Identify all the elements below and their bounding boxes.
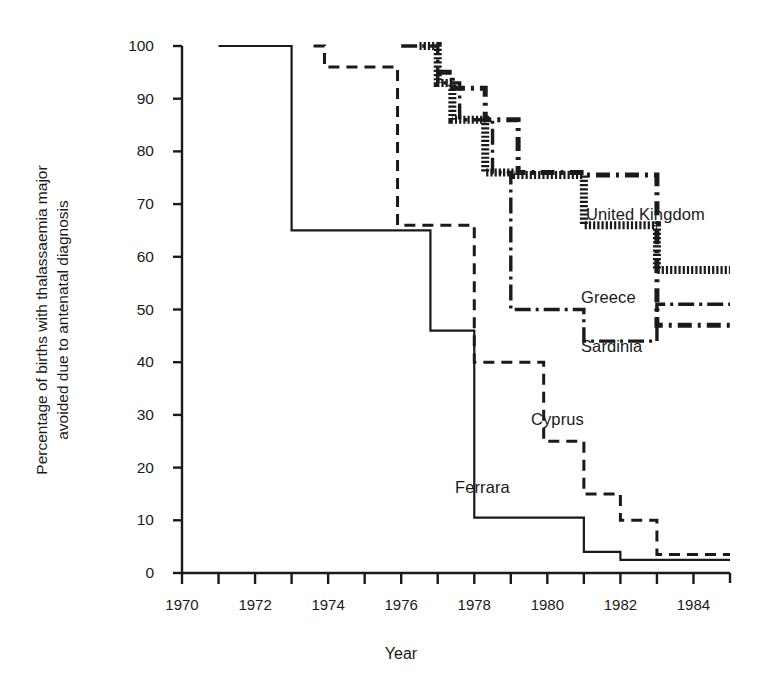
series-label-cyprus: Cyprus <box>531 410 584 429</box>
series-label-sardinia: Sardinia <box>581 337 642 356</box>
chart-figure: Percentage of births with thalassaemia m… <box>0 0 760 697</box>
series-label-ferrara: Ferrara <box>455 478 510 497</box>
axis-ticks <box>173 46 730 584</box>
series-label-united-kingdom: United Kingdom <box>586 205 705 224</box>
series-line-cyprus <box>314 46 730 555</box>
series-label-greece: Greece <box>581 288 636 307</box>
series-line-united-kingdom <box>419 46 730 270</box>
plot-area <box>0 0 760 697</box>
